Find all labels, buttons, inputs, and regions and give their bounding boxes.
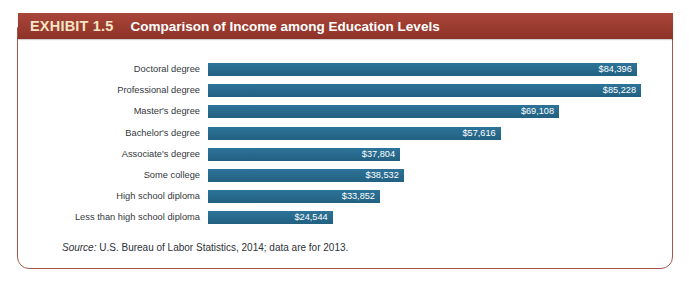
category-label: Less than high school diploma [18,211,208,224]
chart-row: High school diploma$33,852 [18,190,672,203]
bar: $24,544 [208,211,333,224]
bar-track: $84,396 [208,63,672,76]
exhibit-header-band: EXHIBIT 1.5 Comparison of Income among E… [18,13,673,39]
category-label: Professional degree [18,84,208,97]
bar: $57,616 [208,127,501,140]
bar: $37,804 [208,148,400,161]
bar: $38,532 [208,169,404,182]
chart-row: Some college$38,532 [18,169,672,182]
bar-value-label: $85,228 [603,84,636,97]
bar-value-label: $57,616 [462,127,495,140]
bar-value-label: $84,396 [599,63,632,76]
source-label: Source: [62,242,96,253]
bar: $84,396 [208,63,637,76]
category-label: High school diploma [18,190,208,203]
bar: $69,108 [208,105,559,118]
bar-track: $57,616 [208,127,672,140]
bar-value-label: $24,544 [294,211,327,224]
bar-value-label: $38,532 [366,169,399,182]
bar-value-label: $33,852 [342,190,375,203]
exhibit-number: EXHIBIT 1.5 [30,18,114,34]
bar-value-label: $69,108 [521,105,554,118]
exhibit-panel: Doctoral degree$84,396Professional degre… [17,27,673,269]
category-label: Some college [18,169,208,182]
chart-row: Associate's degree$37,804 [18,148,672,161]
category-label: Master's degree [18,105,208,118]
bar-track: $24,544 [208,211,672,224]
chart-row: Less than high school diploma$24,544 [18,211,672,224]
bar-value-label: $37,804 [362,148,395,161]
chart-row: Master's degree$69,108 [18,105,672,118]
exhibit-container: Doctoral degree$84,396Professional degre… [17,13,673,269]
source-text: U.S. Bureau of Labor Statistics, 2014; d… [96,242,348,253]
chart-row: Doctoral degree$84,396 [18,63,672,76]
bar: $85,228 [208,84,641,97]
bar-track: $69,108 [208,105,672,118]
bar-track: $37,804 [208,148,672,161]
bar: $33,852 [208,190,380,203]
exhibit-title: Comparison of Income among Education Lev… [131,19,440,34]
category-label: Bachelor's degree [18,127,208,140]
category-label: Doctoral degree [18,63,208,76]
bar-track: $38,532 [208,169,672,182]
chart-row: Professional degree$85,228 [18,84,672,97]
bar-track: $33,852 [208,190,672,203]
bar-track: $85,228 [208,84,672,97]
category-label: Associate's degree [18,148,208,161]
chart-row: Bachelor's degree$57,616 [18,127,672,140]
source-note: Source: U.S. Bureau of Labor Statistics,… [62,242,348,253]
bar-chart: Doctoral degree$84,396Professional degre… [18,54,672,268]
